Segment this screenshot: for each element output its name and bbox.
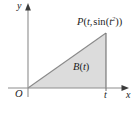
region-label-b-of-t: B(t) [73,62,89,73]
region-label-close-paren: ) [86,61,90,72]
x-axis-label: x [126,90,130,100]
point-label-p: P(t, sin(t2)) [77,17,122,28]
sine-function-name: sin [93,16,105,27]
origin-label: O [15,89,23,100]
y-axis-label: y [17,1,21,11]
x-tick-label-t: t [104,90,107,100]
point-close-paren: ) [119,16,123,27]
y-axis-arrowhead [25,3,31,11]
math-figure: y x O t B(t) P(t, sin(t2)) [0,0,136,113]
